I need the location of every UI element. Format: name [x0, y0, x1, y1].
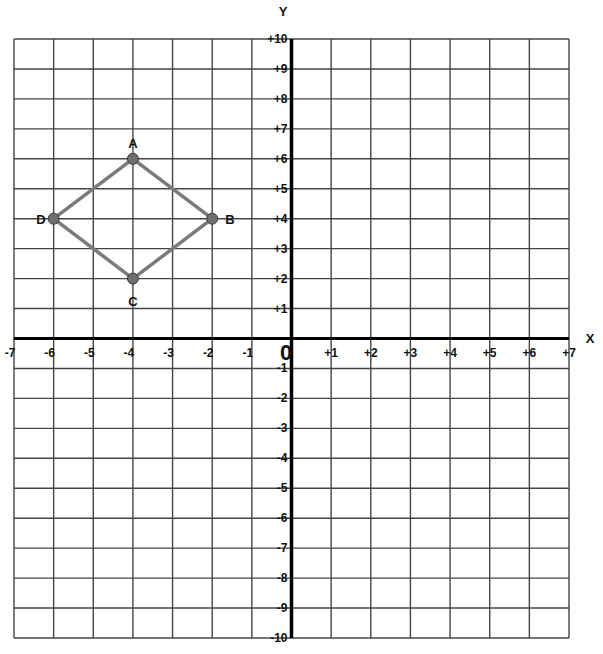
y-tick-label: -5 [277, 481, 288, 495]
x-tick-label: +1 [324, 346, 338, 360]
y-tick-label: +8 [274, 92, 288, 106]
point-label-d: D [36, 212, 45, 227]
y-tick-label: -2 [277, 391, 288, 405]
x-tick-label: +4 [443, 346, 457, 360]
x-tick-label: +7 [562, 346, 576, 360]
point-label-c: C [128, 294, 138, 309]
y-tick-label: -6 [277, 511, 288, 525]
x-tick-label: -7 [5, 346, 16, 360]
x-tick-label: +2 [364, 346, 378, 360]
x-tick-label: -3 [163, 346, 174, 360]
point-a [127, 153, 138, 164]
point-c [127, 273, 138, 284]
point-d [48, 213, 59, 224]
y-tick-label: +4 [274, 212, 288, 226]
x-tick-label: +5 [483, 346, 497, 360]
x-tick-label: +6 [523, 346, 537, 360]
y-tick-label: +6 [274, 152, 288, 166]
x-tick-label: -6 [44, 346, 55, 360]
x-axis-title: X [586, 331, 595, 346]
y-tick-label: -7 [277, 541, 288, 555]
y-tick-label: +9 [274, 62, 288, 76]
x-tick-label: -5 [84, 346, 95, 360]
y-tick-label: -9 [277, 601, 288, 615]
y-tick-label: +7 [274, 122, 288, 136]
point-b [207, 213, 218, 224]
x-tick-label: -4 [124, 346, 135, 360]
y-tick-label: +5 [274, 182, 288, 196]
y-tick-label: +2 [274, 272, 288, 286]
y-tick-label: +10 [267, 32, 288, 46]
x-tick-label: +3 [404, 346, 418, 360]
point-label-a: A [128, 136, 138, 151]
y-tick-label: -3 [277, 421, 288, 435]
rhombus-shape: ABCD [36, 136, 234, 309]
y-tick-label: -10 [270, 631, 288, 645]
y-tick-label: +1 [274, 302, 288, 316]
point-label-b: B [225, 212, 234, 227]
origin-label: 0 [280, 340, 292, 365]
coordinate-plane: ABCD -7-6-5-4-3-2-1+1+2+3+4+5+6+7+10+9+8… [0, 0, 603, 654]
y-axis-title: Y [279, 4, 288, 19]
x-tick-label: -1 [243, 346, 254, 360]
y-tick-label: +3 [274, 242, 288, 256]
y-tick-label: -8 [277, 571, 288, 585]
y-tick-label: -4 [277, 451, 288, 465]
x-tick-label: -2 [203, 346, 214, 360]
